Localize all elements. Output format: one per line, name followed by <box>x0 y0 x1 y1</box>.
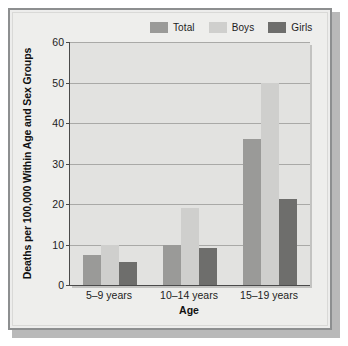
legend-label-boys: Boys <box>232 22 255 33</box>
y-tick-label-20: 20 <box>52 198 64 210</box>
legend-swatch-total <box>150 22 168 33</box>
y-tick-label-40: 40 <box>52 117 64 129</box>
legend-label-girls: Girls <box>291 22 312 33</box>
legend-entry-total: Total <box>150 22 195 33</box>
chart-legend: TotalBoysGirls <box>150 19 312 35</box>
legend-entry-girls: Girls <box>268 22 312 33</box>
y-tick-label-0: 0 <box>58 279 64 291</box>
x-axis-title: Age <box>69 304 309 316</box>
y-tick-mark-60 <box>66 42 70 43</box>
x-tick-label-2: 10–14 years <box>160 289 218 301</box>
bar-girls-group-2 <box>199 248 217 285</box>
legend-swatch-girls <box>268 22 286 33</box>
y-tick-mark-0 <box>66 285 70 286</box>
plot-area: 0102030405060 <box>69 42 310 286</box>
bar-total-group-1 <box>83 255 101 285</box>
legend-entry-boys: Boys <box>209 22 255 33</box>
y-tick-mark-50 <box>66 83 70 84</box>
y-axis-title: Deaths per 100,000 Within Age and Sex Gr… <box>20 42 34 285</box>
y-tick-mark-40 <box>66 123 70 124</box>
y-tick-label-30: 30 <box>52 158 64 170</box>
y-tick-label-10: 10 <box>52 239 64 251</box>
x-tick-label-3: 15–19 years <box>240 289 298 301</box>
bar-total-group-3 <box>243 139 261 285</box>
y-tick-mark-10 <box>66 245 70 246</box>
y-tick-mark-30 <box>66 164 70 165</box>
y-tick-mark-20 <box>66 204 70 205</box>
legend-label-total: Total <box>173 22 195 33</box>
chart-figure: TotalBoysGirls Deaths per 100,000 Within… <box>0 0 348 346</box>
y-tick-label-60: 60 <box>52 36 64 48</box>
x-tick-label-1: 5–9 years <box>86 289 132 301</box>
bar-boys-group-3 <box>261 83 279 286</box>
bar-boys-group-1 <box>101 245 119 286</box>
bar-girls-group-3 <box>279 199 297 285</box>
legend-swatch-boys <box>209 22 227 33</box>
gridline-60 <box>70 42 310 43</box>
bar-boys-group-2 <box>181 208 199 285</box>
bar-girls-group-1 <box>119 262 137 285</box>
y-tick-label-50: 50 <box>52 77 64 89</box>
bar-total-group-2 <box>163 245 181 286</box>
